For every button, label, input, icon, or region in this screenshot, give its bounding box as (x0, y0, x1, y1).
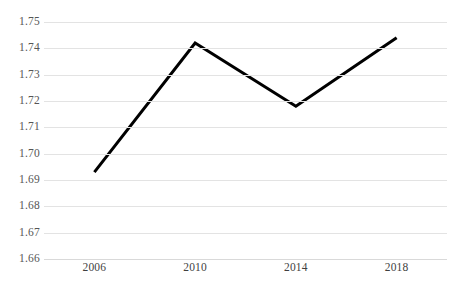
x-axis-tick-label: 2006 (82, 262, 106, 274)
gridline (44, 101, 447, 102)
y-axis-tick-label: 1.75 (19, 16, 40, 28)
y-axis-tick-label: 1.66 (19, 253, 40, 265)
x-axis-tick-label: 2014 (284, 262, 308, 274)
gridline (44, 259, 447, 260)
y-axis-tick-label: 1.68 (19, 200, 40, 212)
plot-area (44, 22, 447, 259)
y-axis-tick-label: 1.71 (19, 121, 40, 133)
y-axis-tick-label: 1.73 (19, 69, 40, 81)
gridline (44, 75, 447, 76)
y-axis-tick-label: 1.74 (19, 42, 40, 54)
x-axis-tick-label: 2018 (385, 262, 409, 274)
gridline (44, 127, 447, 128)
gridline (44, 233, 447, 234)
series-line (44, 22, 447, 259)
gridline (44, 206, 447, 207)
gridline (44, 180, 447, 181)
gridline (44, 22, 447, 23)
y-axis-tick-label: 1.72 (19, 95, 40, 107)
y-axis: 1.751.741.731.721.711.701.691.681.671.66 (0, 0, 40, 288)
y-axis-tick-label: 1.69 (19, 174, 40, 186)
gridline (44, 154, 447, 155)
x-axis-tick-label: 2010 (183, 262, 207, 274)
y-axis-tick-label: 1.67 (19, 227, 40, 239)
x-axis: 2006201020142018 (44, 262, 447, 282)
line-chart: 1.751.741.731.721.711.701.691.681.671.66… (0, 0, 464, 288)
gridline (44, 48, 447, 49)
y-axis-tick-label: 1.70 (19, 148, 40, 160)
